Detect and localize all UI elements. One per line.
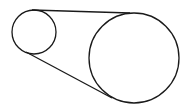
belt-bottom-line bbox=[26, 52, 112, 98]
belt-pulley-diagram bbox=[0, 0, 188, 110]
small-pulley-circle bbox=[12, 10, 56, 54]
large-pulley-circle bbox=[89, 13, 179, 103]
belt-top-line bbox=[32, 10, 130, 13]
